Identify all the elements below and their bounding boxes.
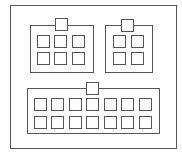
pin-cavity xyxy=(70,99,82,111)
pin-cavity xyxy=(70,117,82,129)
pin-cavity xyxy=(114,53,126,65)
pin-cavity xyxy=(38,53,50,65)
pin-cavity xyxy=(35,117,47,129)
connector-a xyxy=(31,19,94,73)
pin-cavity xyxy=(55,53,67,65)
pin-cavity xyxy=(87,99,99,111)
connector-b-key-tab xyxy=(122,20,134,32)
pin-cavity xyxy=(114,36,126,48)
connector-a-key-tab xyxy=(56,19,68,31)
pin-cavity xyxy=(55,36,67,48)
pin-cavity xyxy=(105,117,117,129)
pin-cavity xyxy=(132,36,144,48)
pin-cavity xyxy=(105,99,117,111)
connector-a-housing xyxy=(31,26,94,73)
pin-cavity xyxy=(87,117,99,129)
connector-pinout-diagram xyxy=(0,0,182,153)
pin-cavity xyxy=(52,117,64,129)
pin-cavity xyxy=(132,53,144,65)
pin-cavity xyxy=(140,117,152,129)
pin-cavity xyxy=(73,36,85,48)
pin-cavity xyxy=(122,117,134,129)
connector-b xyxy=(106,20,153,73)
connector-b-housing xyxy=(106,26,153,73)
connector-c xyxy=(28,83,160,134)
pin-cavity xyxy=(52,99,64,111)
pin-cavity xyxy=(140,99,152,111)
pin-cavity xyxy=(73,53,85,65)
connector-c-key-tab xyxy=(87,83,99,95)
pin-cavity xyxy=(35,99,47,111)
pin-cavity xyxy=(38,36,50,48)
pin-cavity xyxy=(122,99,134,111)
